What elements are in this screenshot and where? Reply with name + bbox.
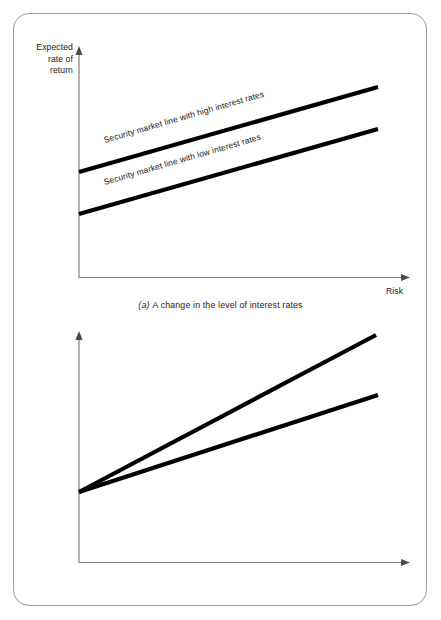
series-line-low-risk-premiums xyxy=(79,395,378,492)
y-axis-title-a: Expected rate of return xyxy=(0,42,78,77)
figure-panel-a: Expected rate of return Risk Security ma… xyxy=(0,0,441,310)
plot-area-b xyxy=(0,310,441,600)
caption-a: (a)A change in the level of interest rat… xyxy=(0,300,441,310)
series-line-high-risk-premiums xyxy=(79,335,376,492)
y-axis-title-line-3: return xyxy=(0,65,78,77)
y-axis-arrowhead-b xyxy=(75,331,82,340)
x-axis-arrowhead-a xyxy=(401,274,410,281)
x-axis-arrowhead-b xyxy=(401,559,410,566)
caption-text-a: A change in the level of interest rates xyxy=(153,300,303,310)
x-axis-title-a: Risk xyxy=(386,286,403,296)
y-axis-title-line-1: Expected xyxy=(0,42,78,54)
y-axis-title-line-2: rate of xyxy=(0,54,78,66)
figure-panel-b: Expected rate of return Risk Security ma… xyxy=(0,310,441,620)
caption-tag-a: (a) xyxy=(138,300,149,310)
chart-svg-b xyxy=(0,310,441,600)
